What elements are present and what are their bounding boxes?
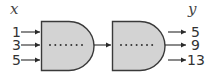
function-machine-diagram: x y 1 3 5 5 9 13 bbox=[0, 0, 205, 75]
output-value-3: 13 bbox=[187, 52, 205, 68]
input-variable-label: x bbox=[10, 0, 19, 18]
output-value-2: 9 bbox=[191, 37, 200, 53]
output-variable-label: y bbox=[187, 0, 197, 18]
second-function-gate bbox=[113, 22, 166, 71]
input-value-3: 5 bbox=[12, 52, 21, 68]
first-function-gate bbox=[42, 22, 95, 71]
input-value-2: 3 bbox=[12, 37, 21, 53]
